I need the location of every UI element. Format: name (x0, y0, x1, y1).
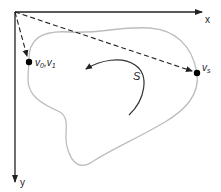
orientation-arrow (86, 60, 144, 115)
diagram-canvas: x y v0,v1 vs S (0, 0, 221, 192)
point-vs (194, 70, 200, 76)
label-v01: v0,v1 (35, 57, 56, 69)
dashed-vector-v01 (15, 12, 27, 56)
x-axis-label: x (205, 14, 210, 25)
region-label: S (133, 70, 141, 82)
point-v01 (26, 59, 32, 65)
y-axis-label: y (20, 177, 25, 188)
region-outline (28, 28, 197, 166)
label-vs: vs (202, 62, 211, 74)
